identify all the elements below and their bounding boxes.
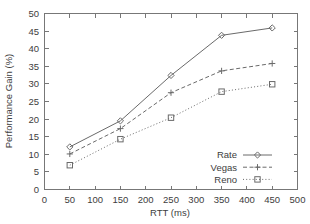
legend-label-vegas: Vegas (211, 162, 238, 173)
x-tick-label: 100 (87, 194, 103, 205)
y-tick-label: 10 (28, 149, 39, 160)
y-tick-label: 0 (34, 184, 39, 195)
y-tick-label: 35 (28, 61, 39, 72)
x-tick-label: 150 (112, 194, 128, 205)
series-line-vegas (70, 63, 272, 153)
series-line-rate (70, 28, 272, 147)
chart-legend: RateVegasReno (211, 149, 272, 184)
x-axis-tick-labels: 050100150200250300350400450500 (42, 194, 306, 205)
y-tick-label: 30 (28, 78, 39, 89)
x-tick-label: 450 (264, 194, 280, 205)
x-tick-label: 200 (138, 194, 154, 205)
data-point-vegas (168, 90, 174, 96)
y-tick-label: 25 (28, 96, 39, 107)
data-point-reno (118, 136, 123, 141)
y-tick-label: 15 (28, 131, 39, 142)
data-point-reno (219, 89, 224, 94)
x-tick-label: 300 (188, 194, 204, 205)
y-tick-label: 45 (28, 26, 39, 37)
data-series-layer (67, 25, 276, 168)
plot-frame (45, 14, 298, 190)
x-axis-title: RTT (ms) (150, 207, 190, 218)
x-tick-label: 250 (163, 194, 179, 205)
performance-gain-line-chart: 05101520253035404550 0501001502002503003… (0, 0, 310, 224)
legend-label-rate: Rate (217, 149, 237, 160)
x-tick-label: 0 (42, 194, 47, 205)
data-point-vegas (269, 60, 275, 66)
chart-container: 05101520253035404550 0501001502002503003… (0, 0, 310, 224)
legend-marker-vegas (254, 164, 260, 170)
data-point-vegas (117, 126, 123, 132)
x-tick-label: 50 (65, 194, 76, 205)
x-tick-label: 350 (214, 194, 230, 205)
data-point-vegas (67, 151, 73, 157)
series-line-reno (70, 84, 272, 165)
y-tick-label: 40 (28, 43, 39, 54)
x-tick-label: 400 (239, 194, 255, 205)
y-tick-label: 50 (28, 8, 39, 19)
data-point-reno (168, 115, 173, 120)
y-axis-title: Performance Gain (%) (3, 54, 14, 149)
y-axis-tick-labels: 05101520253035404550 (28, 8, 39, 195)
x-tick-label: 500 (290, 194, 306, 205)
y-tick-label: 5 (34, 166, 39, 177)
series-rate (67, 25, 276, 150)
data-point-vegas (219, 68, 225, 74)
legend-label-reno: Reno (214, 174, 237, 185)
y-tick-label: 20 (28, 114, 39, 125)
axis-tickmarks (45, 14, 298, 190)
